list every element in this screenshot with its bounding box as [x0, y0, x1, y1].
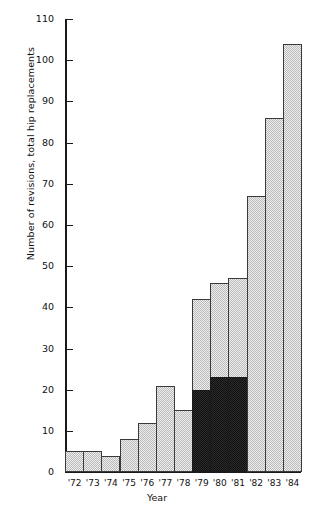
- bar-total-72: [65, 451, 84, 472]
- bar-chart: Number of revisions, total hip replaceme…: [0, 0, 314, 510]
- bar-total-84: [283, 44, 302, 472]
- bar-total-74: [101, 456, 120, 473]
- bar-subset-80: [210, 377, 229, 472]
- bar-total-73: [83, 451, 102, 472]
- x-axis-label: Year: [0, 492, 314, 503]
- bar-total-76: [138, 423, 157, 472]
- bar-total-77: [156, 386, 175, 473]
- bars-group: [0, 0, 314, 510]
- bar-subset-81: [228, 377, 247, 472]
- bar-total-83: [265, 118, 284, 472]
- bar-subset-79: [192, 390, 211, 472]
- x-tick-label: '84: [281, 478, 304, 488]
- bar-total-82: [247, 196, 266, 472]
- bar-total-75: [120, 439, 139, 472]
- bar-total-78: [174, 410, 193, 472]
